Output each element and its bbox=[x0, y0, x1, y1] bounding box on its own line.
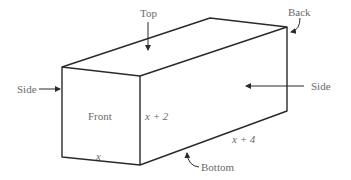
depth-dimension-label: x + 4 bbox=[231, 133, 256, 145]
bottom-arrow-icon bbox=[187, 153, 199, 167]
side-left-label: Side bbox=[17, 83, 37, 95]
box-diagram: Top Back Side Side Front x x + 2 x + 4 B… bbox=[0, 0, 351, 180]
front-label: Front bbox=[88, 110, 112, 122]
side-right-label: Side bbox=[311, 80, 331, 92]
top-face-edges bbox=[62, 18, 287, 76]
bottom-label-group: Bottom bbox=[187, 153, 234, 173]
width-dimension-label: x bbox=[95, 150, 101, 162]
height-dimension-label: x + 2 bbox=[144, 110, 169, 122]
bottom-label: Bottom bbox=[201, 161, 234, 173]
side-face-edges bbox=[140, 27, 287, 165]
top-label: Top bbox=[140, 7, 157, 19]
side-right-label-group: Side bbox=[246, 80, 331, 92]
back-label-group: Back bbox=[288, 6, 311, 32]
side-left-label-group: Side bbox=[17, 83, 60, 95]
back-arrow-icon bbox=[291, 18, 300, 32]
back-label: Back bbox=[288, 6, 311, 18]
top-label-group: Top bbox=[140, 7, 157, 50]
